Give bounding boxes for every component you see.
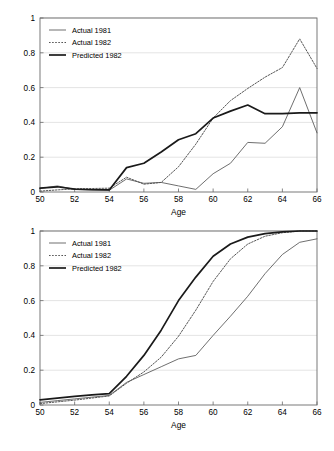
x-tick-label: 52 — [70, 195, 80, 204]
x-tick-label: 58 — [174, 408, 184, 417]
chart-bottom-axis-title: Age — [171, 420, 186, 430]
x-tick-label: 64 — [278, 195, 288, 204]
figure-caption — [0, 441, 334, 451]
y-tick-label: 0.8 — [24, 49, 36, 58]
legend-label: Predicted 1982 — [72, 51, 122, 60]
legend-label: Predicted 1982 — [72, 264, 122, 273]
x-tick-label: 66 — [312, 195, 322, 204]
y-tick-label: 0.6 — [24, 297, 36, 306]
y-tick-label: 1 — [30, 227, 35, 236]
y-tick-label: 0.4 — [24, 331, 36, 340]
y-tick-label: 0.2 — [24, 153, 36, 162]
chart-bottom-yticks: 00.20.40.60.81 — [24, 227, 44, 410]
x-axis-title: Age — [171, 207, 186, 217]
x-tick-label: 54 — [105, 195, 115, 204]
chart-top-yticks: 00.20.40.60.81 — [24, 14, 44, 197]
cumulative-rate-chart: 505254565860626466 00.20.40.60.81 Actual… — [0, 225, 334, 437]
series-line — [40, 105, 317, 190]
y-tick-label: 0.8 — [24, 262, 36, 271]
x-tick-label: 50 — [35, 408, 45, 417]
x-tick-label: 54 — [105, 408, 115, 417]
y-tick-label: 1 — [30, 14, 35, 23]
series-line — [40, 39, 317, 191]
x-tick-label: 66 — [312, 408, 322, 417]
x-tick-label: 64 — [278, 408, 288, 417]
chart-top-series — [40, 39, 317, 191]
legend-label: Actual 1982 — [72, 251, 111, 260]
x-tick-label: 58 — [174, 195, 184, 204]
chart-bottom-svg: 505254565860626466 00.20.40.60.81 Actual… — [0, 225, 334, 437]
hazard-rate-chart: 505254565860626466 00.20.40.60.81 Actual… — [0, 0, 334, 225]
chart-top-xticks: 505254565860626466 — [35, 189, 322, 205]
y-tick-label: 0.6 — [24, 84, 36, 93]
y-tick-label: 0 — [30, 188, 35, 197]
x-tick-label: 56 — [139, 408, 149, 417]
y-tick-label: 0.2 — [24, 366, 36, 375]
x-tick-label: 62 — [243, 195, 253, 204]
legend-label: Actual 1981 — [72, 239, 111, 248]
y-tick-label: 0 — [30, 401, 35, 410]
y-tick-label: 0.4 — [24, 118, 36, 127]
chart-top-axis-title: Age — [171, 207, 186, 217]
chart-top-svg: 505254565860626466 00.20.40.60.81 Actual… — [0, 0, 334, 225]
x-tick-label: 62 — [243, 408, 253, 417]
x-axis-title: Age — [171, 420, 186, 430]
chart-bottom-legend: Actual 1981Actual 1982Predicted 1982 — [49, 239, 122, 273]
x-tick-label: 60 — [209, 408, 219, 417]
x-tick-label: 52 — [70, 408, 80, 417]
chart-top-legend: Actual 1981Actual 1982Predicted 1982 — [49, 26, 122, 60]
x-tick-label: 56 — [139, 195, 149, 204]
chart-bottom-xticks: 505254565860626466 — [35, 402, 322, 418]
legend-label: Actual 1982 — [72, 38, 111, 47]
legend-label: Actual 1981 — [72, 26, 111, 35]
x-tick-label: 60 — [209, 195, 219, 204]
x-tick-label: 50 — [35, 195, 45, 204]
